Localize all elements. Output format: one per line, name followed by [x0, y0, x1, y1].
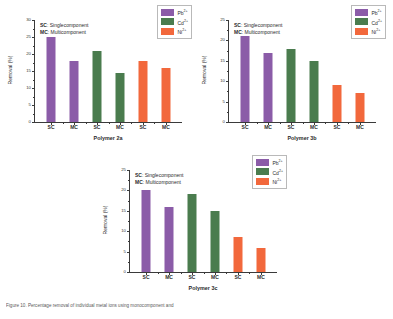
y-tick-label: 0 [29, 120, 31, 124]
y-tick-minor [33, 80, 35, 81]
x-tick-label: SC [94, 125, 101, 130]
annotation-mc-key: MC [234, 29, 242, 35]
x-axis-title: Polymer 2a [94, 135, 123, 141]
chart-panel-polymer-2a: Removal (%) 051015202530SCMCSCMCSCMC Pol… [4, 2, 196, 150]
plot-area-polymer-3c: Removal (%) 0510152025SCMCSCMCSCMC Polym… [99, 152, 291, 300]
legend-swatch-pb2+ [161, 9, 174, 16]
y-tick-minor [128, 221, 130, 222]
y-tick-label: 25 [220, 18, 225, 22]
x-tick-minor [280, 122, 281, 124]
y-axis-title: Removal (%) [102, 206, 108, 235]
x-tick-label: SC [189, 275, 196, 280]
y-tick-mark [226, 20, 229, 21]
plot-area-polymer-3b: Removal (%) 0510152025SCMCSCMCSCMC Polym… [198, 2, 390, 150]
y-tick-label: 10 [220, 79, 225, 83]
y-tick-minor [128, 241, 130, 242]
y-tick-minor [227, 30, 229, 31]
y-tick-mark [127, 252, 130, 253]
y-tick-mark [127, 211, 130, 212]
y-tick-mark [226, 40, 229, 41]
y-tick-label: 15 [121, 209, 126, 213]
annotation-mc-key: MC [40, 29, 48, 35]
legend-item-pb2+: Pb2+ [256, 158, 283, 167]
legend-swatch-cd2+ [355, 18, 368, 25]
y-tick-mark [127, 272, 130, 273]
x-tick-label: SC [143, 275, 150, 280]
x-tick-label: MC [116, 125, 124, 130]
y-tick-mark [127, 190, 130, 191]
bar-cd2+-sc [287, 49, 296, 122]
legend-item-pb2+: Pb2+ [161, 8, 188, 17]
y-tick-label: 0 [223, 120, 225, 124]
annotation-sc-text: : Singlecomponent [142, 172, 183, 178]
legend-polymer-3b: Pb2+Cd2+Ni2+ [351, 5, 386, 39]
legend-swatch-pb2+ [256, 159, 269, 166]
x-tick-minor [325, 122, 326, 124]
chart-panel-polymer-3b: Removal (%) 0510152025SCMCSCMCSCMC Polym… [198, 2, 390, 150]
y-tick-minor [33, 114, 35, 115]
y-tick-minor [227, 71, 229, 72]
x-tick-minor [154, 122, 155, 124]
y-tick-label: 15 [26, 69, 31, 73]
legend-item-cd2+: Cd2+ [355, 18, 382, 27]
x-tick-minor [63, 122, 64, 124]
bar-ni2+-mc [355, 93, 364, 122]
bar-ni2+-mc [161, 68, 170, 122]
bar-ni2+-sc [332, 85, 341, 122]
annotation-mc: MC: Multicomponent [135, 179, 181, 186]
y-tick-mark [32, 37, 35, 38]
y-tick-label: 30 [26, 18, 31, 22]
x-tick-label: SC [333, 125, 340, 130]
y-tick-mark [32, 88, 35, 89]
y-tick-label: 20 [220, 38, 225, 42]
x-tick-minor [86, 122, 87, 124]
legend-label-cd2+: Cd2+ [177, 18, 188, 27]
legend-swatch-ni2+ [161, 28, 174, 35]
y-tick-minor [227, 112, 229, 113]
y-tick-label: 25 [26, 35, 31, 39]
annotation-sc: SC: Singlecomponent [135, 172, 183, 179]
x-tick-label: MC [70, 125, 78, 130]
bar-pb2+-sc [142, 190, 151, 272]
y-tick-mark [32, 54, 35, 55]
x-tick-minor [158, 272, 159, 274]
y-tick-label: 10 [26, 86, 31, 90]
legend-label-pb2+: Pb2+ [177, 8, 187, 17]
annotation-sc-key: SC [40, 22, 47, 28]
figure-caption: Figure 10. Percentage removal of individ… [6, 303, 387, 309]
x-tick-label: SC [139, 125, 146, 130]
y-tick-minor [33, 63, 35, 64]
y-tick-minor [33, 29, 35, 30]
x-tick-label: SC [242, 125, 249, 130]
legend-label-cd2+: Cd2+ [371, 18, 382, 27]
y-tick-label: 25 [121, 168, 126, 172]
annotation-sc: SC: Singlecomponent [234, 22, 282, 29]
legend-swatch-pb2+ [355, 9, 368, 16]
annotation-sc-text: : Singlecomponent [47, 22, 88, 28]
annotation-sc-text: : Singlecomponent [241, 22, 282, 28]
y-tick-mark [226, 61, 229, 62]
bar-cd2+-sc [93, 51, 102, 122]
bar-pb2+-mc [264, 53, 273, 122]
y-tick-minor [128, 262, 130, 263]
legend-label-pb2+: Pb2+ [272, 158, 282, 167]
legend-swatch-ni2+ [256, 178, 269, 185]
x-tick-label: MC [165, 275, 173, 280]
annotation-sc-key: SC [135, 172, 142, 178]
y-tick-minor [227, 91, 229, 92]
annotation-mc-text: : Multicomponent [48, 29, 86, 35]
y-tick-label: 5 [124, 249, 126, 253]
annotation-mc-text: : Multicomponent [242, 29, 280, 35]
x-tick-minor [131, 122, 132, 124]
annotation-mc: MC: Multicomponent [40, 29, 86, 36]
x-tick-minor [249, 272, 250, 274]
x-tick-minor [303, 122, 304, 124]
annotation-mc-text: : Multicomponent [143, 179, 181, 185]
y-tick-mark [32, 20, 35, 21]
y-axis-title: Removal (%) [7, 56, 13, 85]
legend-label-cd2+: Cd2+ [272, 168, 283, 177]
bar-pb2+-sc [47, 37, 56, 122]
legend-swatch-cd2+ [161, 18, 174, 25]
legend-item-cd2+: Cd2+ [256, 168, 283, 177]
x-tick-minor [257, 122, 258, 124]
